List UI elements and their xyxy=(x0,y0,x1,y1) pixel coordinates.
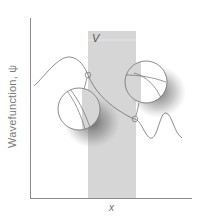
diagram-canvas xyxy=(0,0,201,220)
wavefunction-barrier-diagram: V Wavefunction, ψ x xyxy=(0,0,201,220)
y-axis-label: Wavefunction, ψ xyxy=(6,65,18,148)
left-magnifier-connector xyxy=(84,78,87,89)
x-axis-label: x xyxy=(109,202,114,213)
barrier-potential-label: V xyxy=(92,32,99,44)
